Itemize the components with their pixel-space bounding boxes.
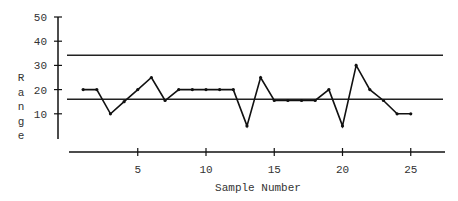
data-point xyxy=(409,112,412,115)
data-point xyxy=(177,88,180,91)
y-axis: 1020304050 xyxy=(34,12,62,139)
data-point xyxy=(95,88,98,91)
control-limit-lines xyxy=(67,55,443,99)
x-axis-label: Sample Number xyxy=(215,182,301,194)
data-point xyxy=(191,88,194,91)
data-point xyxy=(123,100,126,103)
range-series xyxy=(82,64,413,128)
range-control-chart: 1020304050 Range 510152025 Sample Number xyxy=(0,0,458,201)
y-label-letter: n xyxy=(18,101,25,113)
data-point xyxy=(232,88,235,91)
y-axis-label: Range xyxy=(18,72,25,142)
data-point xyxy=(245,124,248,127)
data-point xyxy=(218,88,221,91)
x-axis: 510152025 xyxy=(69,148,445,176)
y-tick-label: 30 xyxy=(34,60,47,72)
data-point xyxy=(259,76,262,79)
data-point xyxy=(136,88,139,91)
data-point xyxy=(382,99,385,102)
x-tick-label: 20 xyxy=(336,164,349,176)
y-tick-label: 50 xyxy=(34,12,47,24)
data-point xyxy=(314,99,317,102)
data-point xyxy=(273,99,276,102)
data-point xyxy=(204,88,207,91)
data-point xyxy=(109,112,112,115)
data-point xyxy=(150,76,153,79)
x-tick-label: 5 xyxy=(134,164,141,176)
data-point xyxy=(327,88,330,91)
y-tick-label: 20 xyxy=(34,85,47,97)
data-point xyxy=(286,99,289,102)
data-point xyxy=(368,88,371,91)
y-label-letter: g xyxy=(18,116,25,128)
y-tick-label: 40 xyxy=(34,36,47,48)
data-point xyxy=(300,99,303,102)
data-point xyxy=(341,124,344,127)
y-label-letter: R xyxy=(18,72,25,84)
range-line xyxy=(83,65,411,126)
data-point xyxy=(82,88,85,91)
x-tick-label: 10 xyxy=(199,164,212,176)
data-point xyxy=(163,99,166,102)
data-point xyxy=(396,112,399,115)
data-point xyxy=(355,64,358,67)
x-tick-label: 15 xyxy=(268,164,281,176)
y-label-letter: a xyxy=(18,87,25,99)
x-tick-label: 25 xyxy=(404,164,417,176)
y-label-letter: e xyxy=(18,130,25,142)
y-tick-label: 10 xyxy=(34,109,47,121)
